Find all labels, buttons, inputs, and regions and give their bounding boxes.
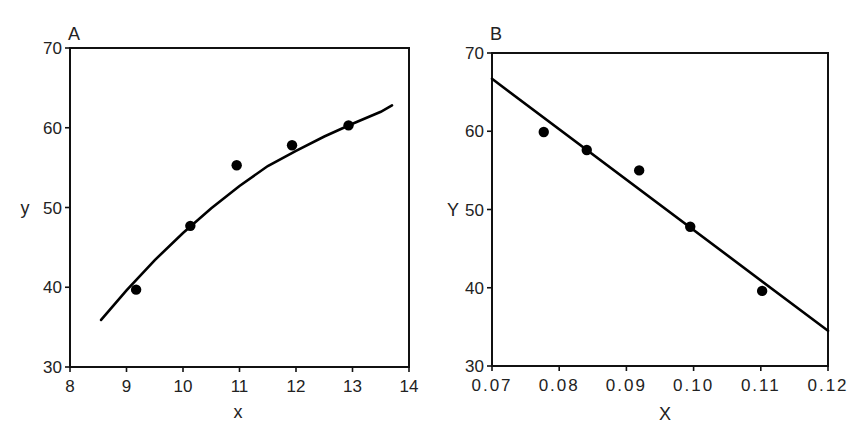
data-point (231, 160, 241, 170)
panel-label-b: B (490, 24, 502, 44)
data-points-a (131, 120, 354, 295)
plot-frame-a (70, 48, 409, 367)
plot-frame-b (492, 53, 828, 366)
data-points-b (539, 127, 768, 296)
chart-panel-b: B 0.070.080.090.100.110.12 3040506070 X … (447, 24, 849, 424)
x-axis-a: 891011121314 (65, 367, 418, 396)
x-axis-b: 0.070.080.090.100.110.12 (471, 366, 848, 395)
fitted-line-b (492, 79, 828, 331)
y-tick-label: 40 (465, 279, 484, 298)
y-tick-label: 70 (465, 44, 484, 63)
x-tick-label: 12 (287, 377, 306, 396)
data-point (287, 140, 297, 150)
y-tick-label: 30 (465, 357, 484, 376)
data-point (634, 165, 644, 175)
data-point (582, 145, 592, 155)
data-point (539, 127, 549, 137)
data-point (185, 221, 195, 231)
data-point (757, 286, 767, 296)
x-tick-label: 9 (122, 377, 131, 396)
y-axis-label-b: Y (447, 200, 459, 220)
y-tick-label: 70 (43, 39, 62, 58)
y-axis-a: 3040506070 (43, 39, 70, 377)
chart-panel-a: A 891011121314 3040506070 x y (21, 24, 419, 422)
x-tick-label: 0.08 (539, 376, 580, 395)
x-axis-label-b: X (659, 404, 671, 424)
figure: A 891011121314 3040506070 x y B 0.070.08… (0, 0, 867, 440)
x-tick-label: 14 (400, 377, 419, 396)
y-axis-label-a: y (21, 198, 30, 218)
x-tick-label: 0.07 (471, 376, 512, 395)
y-tick-label: 40 (43, 278, 62, 297)
panel-label-a: A (68, 24, 80, 44)
x-tick-label: 13 (343, 377, 362, 396)
y-tick-label: 30 (43, 358, 62, 377)
y-tick-label: 50 (465, 201, 484, 220)
x-tick-label: 11 (231, 377, 249, 396)
data-point (343, 120, 353, 130)
y-tick-label: 50 (43, 199, 62, 218)
x-tick-label: 8 (65, 377, 74, 396)
y-axis-b: 3040506070 (465, 44, 492, 376)
x-tick-label: 0.10 (673, 376, 714, 395)
data-point (131, 284, 141, 294)
x-axis-label-a: x (234, 402, 243, 422)
y-tick-label: 60 (43, 119, 62, 138)
data-point (685, 222, 695, 232)
y-tick-label: 60 (465, 122, 484, 141)
fitted-curve-a (101, 105, 392, 320)
x-tick-label: 0.11 (741, 376, 781, 395)
x-tick-label: 0.09 (606, 376, 647, 395)
x-tick-label: 0.12 (807, 376, 848, 395)
x-tick-label: 10 (174, 377, 193, 396)
